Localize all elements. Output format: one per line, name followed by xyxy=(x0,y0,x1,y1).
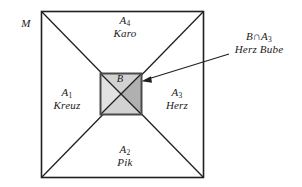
label-universe-m: M xyxy=(14,17,38,29)
label-set-a1-desc: Kreuz xyxy=(36,99,98,111)
label-callout-desc: Herz Bube xyxy=(218,43,300,55)
label-set-a3: A3 Herz xyxy=(146,86,208,111)
label-set-a2-desc: Pik xyxy=(92,156,158,168)
label-set-a3-desc: Herz xyxy=(146,99,208,111)
label-set-b-name: B xyxy=(106,73,134,85)
label-set-a3-name: A3 xyxy=(146,86,208,98)
label-set-a4-name: A4 xyxy=(92,14,158,26)
label-set-a4: A4 Karo xyxy=(92,14,158,39)
label-set-a2: A2 Pik xyxy=(92,143,158,168)
label-set-a1: A1 Kreuz xyxy=(36,86,98,111)
diagram-canvas: M A4 Karo A1 Kreuz A3 Herz A2 Pik B B∩A3… xyxy=(0,0,302,187)
label-set-b: B xyxy=(106,73,134,85)
label-callout-intersection: B∩A3 Herz Bube xyxy=(218,30,300,55)
label-universe-m-name: M xyxy=(14,17,38,29)
label-callout-name: B∩A3 xyxy=(218,30,300,42)
label-set-a4-desc: Karo xyxy=(92,27,158,39)
label-set-a1-name: A1 xyxy=(36,86,98,98)
label-set-a2-name: A2 xyxy=(92,143,158,155)
